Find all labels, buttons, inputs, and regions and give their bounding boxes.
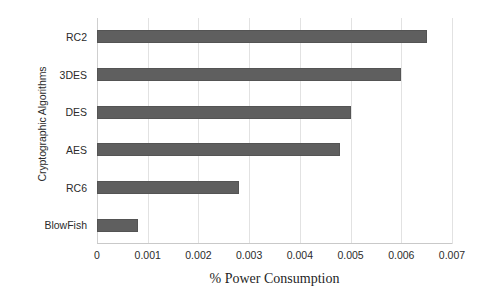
bar-row [97,206,452,244]
bar-3des [97,68,401,81]
bar-des [97,106,351,119]
y-axis-tick-labels: RC2 3DES DES AES RC6 BlowFish [36,18,94,244]
y-tick-label-3des: 3DES [36,56,94,94]
bars-layer [97,18,452,244]
x-tick-label: 0.007 [439,249,465,261]
y-tick-label-aes: AES [36,131,94,169]
x-tick-label: 0.006 [388,249,414,261]
x-axis-tick-labels: 00.0010.0020.0030.0040.0050.0060.007 [97,249,452,265]
gridline [452,18,453,244]
x-tick-label: 0.005 [337,249,363,261]
y-tick-label-rc2: RC2 [36,18,94,56]
x-tick-label: 0.004 [287,249,313,261]
bar-row [97,169,452,207]
bar-blowfish [97,219,138,232]
plot-area [97,18,452,244]
bar-row [97,131,452,169]
y-tick-label-rc6: RC6 [36,169,94,207]
y-tick-label-des: DES [36,93,94,131]
bar-rc6 [97,181,239,194]
x-tick-label: 0.001 [135,249,161,261]
bar-rc2 [97,30,427,43]
x-tick-label: 0.002 [185,249,211,261]
bar-row [97,18,452,56]
x-tick-label: 0 [94,249,100,261]
bar-aes [97,143,340,156]
x-tick-label: 0.003 [236,249,262,261]
bar-chart-figure: Cryptographic Algorithms RC2 3DES DES AE… [0,0,489,304]
x-axis-title: % Power Consumption [97,271,452,287]
bar-row [97,93,452,131]
bar-row [97,56,452,94]
y-tick-label-blowfish: BlowFish [36,206,94,244]
